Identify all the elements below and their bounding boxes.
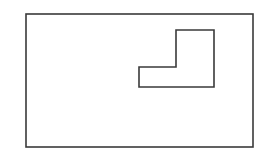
diagram-canvas [0,0,270,161]
l-shape [139,30,214,87]
